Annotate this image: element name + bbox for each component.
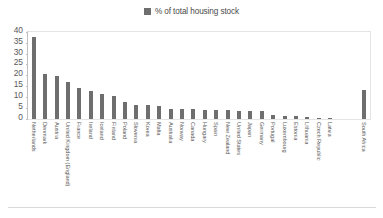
y-tick-label: 40 [14, 26, 23, 35]
x-axis-tick-label: Australia [168, 122, 174, 143]
bar-slot[interactable] [199, 32, 210, 119]
bar[interactable] [317, 118, 321, 119]
bar-slot[interactable] [325, 32, 336, 119]
bar[interactable] [248, 111, 252, 119]
x-label-slot: Lithuania [302, 121, 313, 201]
legend-label: % of total housing stock [155, 7, 239, 16]
x-label-slot: United States [233, 121, 244, 201]
bar[interactable] [169, 109, 173, 119]
bar-slot[interactable] [188, 32, 199, 119]
bar[interactable] [146, 105, 150, 119]
bar[interactable] [112, 96, 116, 119]
bar-slot[interactable] [51, 32, 62, 119]
bar-slot[interactable] [347, 32, 358, 119]
x-axis-tick-label: Czech Republic [316, 122, 322, 160]
bar-slot[interactable] [313, 32, 324, 119]
x-axis-tick-label: Hungary [202, 122, 208, 143]
x-label-slot [336, 121, 347, 201]
bar[interactable] [226, 110, 230, 119]
bar-slot[interactable] [142, 32, 153, 119]
x-label-slot: Portugal [268, 121, 279, 201]
bar-slot[interactable] [153, 32, 164, 119]
bar[interactable] [100, 94, 104, 119]
bar[interactable] [89, 91, 93, 119]
y-tick-label: 5 [18, 102, 23, 111]
bar[interactable] [123, 102, 127, 119]
x-axis-tick-label: Canada [191, 122, 197, 141]
bar[interactable] [55, 76, 59, 120]
bar-slot[interactable] [165, 32, 176, 119]
bar-slot[interactable] [359, 32, 370, 119]
bar-slot[interactable] [119, 32, 130, 119]
bar[interactable] [362, 90, 366, 119]
x-axis-tick-label: United States [236, 122, 242, 155]
bar[interactable] [134, 105, 138, 119]
bar-slot[interactable] [39, 32, 50, 119]
x-label-slot: Korea [142, 121, 153, 201]
x-axis-tick-label: South Africa [362, 122, 368, 152]
bar-slot[interactable] [268, 32, 279, 119]
bar-slot[interactable] [74, 32, 85, 119]
bar[interactable] [191, 109, 195, 119]
bar-slot[interactable] [233, 32, 244, 119]
x-axis-tick-label: Netherlands [31, 122, 37, 152]
bar[interactable] [214, 110, 218, 119]
x-axis-tick-label: Denmark [42, 122, 48, 144]
bar-slot[interactable] [302, 32, 313, 119]
bar[interactable] [260, 111, 264, 119]
bar-slot[interactable] [108, 32, 119, 119]
x-axis-tick-label: Austria [54, 122, 60, 139]
y-tick-label: 25 [14, 58, 23, 67]
x-axis-tick-label: Luxembourg [282, 122, 288, 153]
x-axis-tick-label: Portugal [270, 122, 276, 142]
x-axis-tick-label: Korea [145, 122, 151, 137]
chart-legend: % of total housing stock [0, 7, 383, 16]
x-label-slot: Hungary [199, 121, 210, 201]
x-label-slot: Japan [245, 121, 256, 201]
x-label-slot: Finland [108, 121, 119, 201]
bar-slot[interactable] [96, 32, 107, 119]
bar-slot[interactable] [176, 32, 187, 119]
x-label-slot: Ireland [85, 121, 96, 201]
x-axis-tick-label: Spain [213, 122, 219, 136]
x-label-slot: Netherlands [28, 121, 39, 201]
bar[interactable] [66, 82, 70, 119]
bar-slot[interactable] [131, 32, 142, 119]
bar[interactable] [180, 109, 184, 119]
chart-figure: % of total housing stock 40 35 30 25 20 … [0, 0, 383, 218]
bar-slot[interactable] [279, 32, 290, 119]
bar-slot[interactable] [85, 32, 96, 119]
x-label-slot: Norway [176, 121, 187, 201]
bar[interactable] [283, 116, 287, 119]
bar-series [28, 32, 370, 119]
bar[interactable] [305, 117, 309, 119]
x-label-slot: Canada [188, 121, 199, 201]
x-label-slot: Australia [165, 121, 176, 201]
bar-slot[interactable] [336, 32, 347, 119]
x-axis-tick-label: Slovenia [134, 122, 140, 143]
x-axis-tick-label: Poland [122, 122, 128, 139]
bar[interactable] [237, 111, 241, 119]
bar-slot[interactable] [245, 32, 256, 119]
bar-slot[interactable] [290, 32, 301, 119]
y-tick-label: 0 [18, 113, 23, 122]
bar[interactable] [203, 110, 207, 119]
bar[interactable] [294, 116, 298, 119]
bar[interactable] [43, 74, 47, 119]
x-axis-tick-label: Estonia [293, 122, 299, 140]
x-label-slot: Latvia [325, 121, 336, 201]
x-label-slot: Germany [256, 121, 267, 201]
bar-slot[interactable] [256, 32, 267, 119]
bar[interactable] [77, 88, 81, 119]
bar-slot[interactable] [211, 32, 222, 119]
bar[interactable] [157, 106, 161, 119]
x-label-slot: Spain [211, 121, 222, 201]
bar[interactable] [32, 37, 36, 119]
x-label-slot: Malta [153, 121, 164, 201]
bar-slot[interactable] [62, 32, 73, 119]
bar[interactable] [328, 118, 332, 119]
bar-slot[interactable] [28, 32, 39, 119]
bar-slot[interactable] [222, 32, 233, 119]
bar[interactable] [271, 115, 275, 119]
x-label-slot: Poland [119, 121, 130, 201]
